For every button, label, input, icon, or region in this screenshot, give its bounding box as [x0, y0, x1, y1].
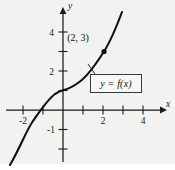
point-annotation-label: (2, 3): [67, 32, 89, 44]
y-tick-label-2: 2: [49, 67, 54, 77]
x-tick-label-4: 4: [141, 116, 146, 126]
function-label-box: y = f(x): [90, 74, 142, 93]
y-tick-label-neg1: -1: [47, 125, 55, 135]
point-marker-2-3: [101, 49, 106, 54]
y-axis-label: y: [67, 1, 73, 11]
function-label-text: y = f(x): [100, 78, 132, 89]
x-tick-label-neg2: -2: [19, 116, 27, 126]
graph-canvas: x y -2 2 4 4 2 -1 (2, 3): [0, 0, 175, 170]
y-axis-arrowhead: [60, 7, 67, 14]
function-graph-figure: x y -2 2 4 4 2 -1 (2, 3) y = f(x): [0, 0, 175, 170]
x-axis-label: x: [165, 99, 171, 109]
x-tick-label-2: 2: [101, 116, 106, 126]
y-tick-label-4: 4: [49, 28, 54, 38]
